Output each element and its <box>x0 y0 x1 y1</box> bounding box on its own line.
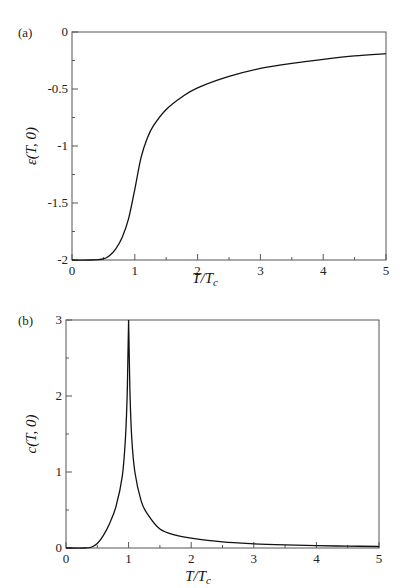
data-line <box>66 320 379 548</box>
x-tick-label: 0 <box>69 263 76 278</box>
x-axis-label: T/Tc <box>185 568 211 586</box>
x-tick-label: 3 <box>251 551 258 566</box>
y-tick-label: 0 <box>56 540 63 555</box>
x-tick-label: 5 <box>383 263 390 278</box>
y-tick-label: 0 <box>62 24 69 39</box>
panel-tag: (a) <box>18 25 32 40</box>
x-tick-label: 5 <box>376 551 383 566</box>
y-tick-label: 1 <box>56 464 63 479</box>
y-tick-label: 3 <box>56 312 63 327</box>
plot-frame <box>72 32 386 260</box>
x-tick-label: 1 <box>125 551 132 566</box>
y-tick-label: 2 <box>56 388 63 403</box>
x-axis-label: T/Tc <box>192 270 218 288</box>
x-tick-label: 1 <box>132 263 139 278</box>
panel-b: 0123450123(b)T/Tcc(T, 0) <box>18 312 382 586</box>
y-tick-label: -2 <box>57 252 68 267</box>
y-axis-label: c(T, 0) <box>23 415 40 454</box>
data-line <box>72 54 386 260</box>
x-tick-label: 2 <box>188 551 195 566</box>
y-tick-label: -1 <box>57 138 68 153</box>
x-tick-label: 0 <box>63 551 70 566</box>
y-tick-label: -0.5 <box>47 81 68 96</box>
figure: 0123450-0.5-1-1.5-2(a)T/Tcε(T, 0)0123450… <box>0 0 400 588</box>
panel-a: 0123450-0.5-1-1.5-2(a)T/Tcε(T, 0) <box>18 24 389 288</box>
y-tick-label: -1.5 <box>47 195 68 210</box>
panel-tag: (b) <box>18 313 33 328</box>
x-tick-label: 3 <box>257 263 264 278</box>
x-tick-label: 4 <box>313 551 320 566</box>
y-axis-label: ε(T, 0) <box>23 127 40 165</box>
x-tick-label: 4 <box>320 263 327 278</box>
